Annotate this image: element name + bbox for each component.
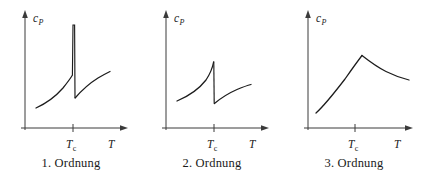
x-axis-label: T — [249, 138, 257, 150]
x-axis-arrowhead — [405, 125, 413, 131]
x-tick-label-tc: Tc — [207, 138, 218, 153]
panel-caption-first-order: 1. Ordnung — [0, 156, 142, 171]
curve-above-tc — [362, 56, 409, 81]
panel-third-order: cP T Tc 3. Ordnung — [283, 0, 425, 184]
phase-transition-figure: cP T Tc 1. Ordnung cP T Tc 2. Ordnung — [0, 0, 427, 184]
panel-caption-second-order: 2. Ordnung — [141, 156, 283, 171]
panel-caption-third-order: 3. Ordnung — [283, 156, 425, 171]
y-axis-arrowhead — [305, 10, 311, 18]
panel-second-order: cP T Tc 2. Ordnung — [141, 0, 283, 184]
x-axis-label: T — [394, 138, 402, 150]
curve-below-tc — [316, 56, 362, 114]
curve-above-tc — [75, 72, 110, 99]
y-axis-label: cP — [174, 12, 185, 27]
panel-first-order: cP T Tc 1. Ordnung — [0, 0, 142, 184]
x-tick-label-tc: Tc — [348, 138, 359, 153]
curve-below-tc — [177, 62, 214, 101]
y-axis-arrowhead — [22, 10, 28, 18]
curve-below-tc — [36, 76, 72, 109]
y-axis-label: cP — [33, 12, 44, 27]
y-axis-label: cP — [316, 12, 327, 27]
plot-third-order: cP T Tc — [283, 0, 425, 155]
x-tick-label-tc: Tc — [66, 138, 77, 153]
x-axis-arrowhead — [120, 125, 128, 131]
plot-second-order: cP T Tc — [141, 0, 283, 155]
plot-first-order: cP T Tc — [0, 0, 142, 155]
curve-above-tc — [214, 85, 251, 104]
y-axis-arrowhead — [163, 10, 169, 18]
curve-spike-tc — [72, 25, 75, 98]
x-axis-arrowhead — [261, 125, 269, 131]
x-axis-label: T — [108, 138, 116, 150]
